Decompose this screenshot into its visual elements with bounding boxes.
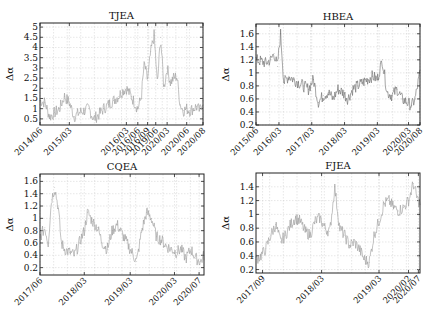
data-point <box>147 80 148 81</box>
data-point <box>318 102 319 103</box>
data-point <box>315 221 316 222</box>
x-tick-label: 2018/03 <box>294 273 326 305</box>
x-tick-label: 2017/09 <box>235 273 267 305</box>
data-point <box>270 235 271 236</box>
data-point <box>280 242 281 243</box>
data-point <box>79 112 80 113</box>
data-point <box>97 227 98 228</box>
data-point <box>379 221 380 222</box>
data-point <box>195 258 196 259</box>
data-point <box>324 228 325 229</box>
data-point <box>64 96 65 97</box>
data-point <box>288 76 289 77</box>
data-point <box>397 89 398 90</box>
data-point <box>290 224 291 225</box>
data-point <box>403 207 404 208</box>
chart-title: CQEA <box>107 161 138 172</box>
data-point <box>113 100 114 101</box>
data-point <box>352 89 353 90</box>
data-point <box>349 245 350 246</box>
y-axis-label: Δα <box>220 216 231 230</box>
x-tick-label: 2019/03 <box>350 125 382 157</box>
data-point <box>382 59 383 60</box>
y-tick-label: 0.8 <box>240 223 255 233</box>
x-tick-label: 2019/03 <box>351 273 383 305</box>
data-point <box>166 246 167 247</box>
y-tick-label: 2.5 <box>24 73 39 83</box>
data-point <box>48 243 49 244</box>
data-point <box>323 95 324 96</box>
data-point <box>200 261 201 262</box>
data-point <box>156 236 157 237</box>
data-point <box>84 230 85 231</box>
data-point <box>261 255 262 256</box>
data-point <box>367 79 368 80</box>
data-point <box>270 59 271 60</box>
y-axis-label: Δα <box>4 67 15 81</box>
data-point <box>49 116 50 117</box>
data-point <box>54 187 55 188</box>
data-point <box>193 108 194 109</box>
data-point <box>92 221 93 222</box>
chart-title: TJEA <box>109 10 135 21</box>
data-point <box>173 78 174 79</box>
data-point <box>74 255 75 256</box>
data-point <box>181 249 182 250</box>
data-point <box>93 118 94 119</box>
data-point <box>141 230 142 231</box>
y-tick-label: 1.5 <box>24 93 39 103</box>
y-tick-label: 0.4 <box>240 251 255 261</box>
y-tick-label: 3.5 <box>24 53 39 63</box>
data-point <box>280 33 281 34</box>
data-point <box>61 243 62 244</box>
y-tick-label: 1.6 <box>240 29 255 39</box>
data-point <box>265 63 266 64</box>
data-point <box>320 217 321 218</box>
data-point <box>374 235 375 236</box>
data-point <box>377 79 378 80</box>
data-point <box>102 243 103 244</box>
data-point <box>157 84 158 85</box>
data-point <box>123 90 124 91</box>
data-point <box>103 108 104 109</box>
data-point <box>54 112 55 113</box>
data-point <box>384 204 385 205</box>
data-point <box>303 86 304 87</box>
data-point <box>108 104 109 105</box>
data-point <box>98 114 99 115</box>
data-point <box>146 212 147 213</box>
y-tick-label: 1 <box>32 104 38 114</box>
chart-title: HBEA <box>323 11 354 22</box>
data-point <box>277 66 278 67</box>
data-point <box>285 235 286 236</box>
data-point <box>167 67 168 68</box>
y-tick-label: 1 <box>248 68 254 78</box>
data-point <box>369 262 370 263</box>
data-point <box>45 227 46 228</box>
data-point <box>69 252 70 253</box>
data-point <box>293 79 294 80</box>
y-tick-label: 3 <box>32 63 38 73</box>
data-point <box>118 96 119 97</box>
data-point <box>406 102 407 103</box>
data-point <box>176 252 177 253</box>
y-tick-label: 0.8 <box>240 81 255 91</box>
data-point <box>398 211 399 212</box>
x-tick-label: 2019/03 <box>103 275 135 307</box>
data-point <box>59 108 60 109</box>
data-point <box>141 98 142 99</box>
data-point <box>275 224 276 225</box>
x-tick-label: 2017/06 <box>12 275 44 307</box>
y-tick-label: 0.6 <box>240 94 255 104</box>
y-tick-label: 2 <box>32 83 38 93</box>
data-point <box>151 218 152 219</box>
y-tick-label: 0.2 <box>24 263 38 273</box>
data-point <box>79 243 80 244</box>
data-point <box>308 89 309 90</box>
data-point <box>180 104 181 105</box>
y-axis-label: Δα <box>4 217 15 231</box>
data-point <box>305 231 306 232</box>
data-point <box>107 249 108 250</box>
data-point <box>329 231 330 232</box>
data-point <box>283 82 284 83</box>
